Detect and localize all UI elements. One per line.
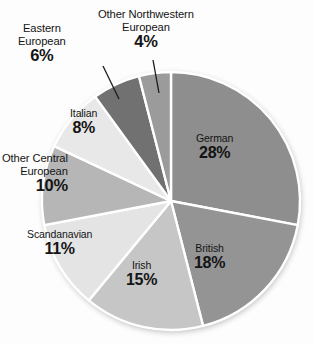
slice-label-german: German 28%	[196, 133, 233, 162]
slice-percent-italian: 8%	[70, 119, 97, 137]
slice-percent-other-northwestern-european: 4%	[98, 32, 194, 50]
slice-label-irish: Irish 15%	[126, 260, 157, 289]
slice-percent-other-central-european: 10%	[2, 176, 68, 194]
slice-name-british: British	[194, 243, 225, 255]
slice-name-eastern-european-line1: Eastern	[18, 22, 66, 35]
slice-percent-german: 28%	[196, 144, 233, 162]
slice-label-italian: Italian 8%	[70, 108, 97, 137]
slice-name-german: German	[196, 133, 233, 145]
slice-percent-irish: 15%	[126, 271, 157, 289]
slice-name-scandanavian: Scandanavian	[27, 229, 92, 241]
slice-percent-eastern-european: 6%	[18, 46, 66, 64]
slice-label-other-central-european: Other Central European 10%	[2, 152, 68, 195]
slice-percent-british: 18%	[194, 254, 225, 272]
slice-name-other-central-european-line1: Other Central	[2, 152, 68, 165]
slice-label-scandanavian: Scandanavian 11%	[27, 229, 92, 258]
slice-name-italian: Italian	[70, 108, 97, 120]
slice-label-other-northwestern-european: Other Northwestern European 4%	[98, 8, 194, 51]
pie-slice-german[interactable]: German 28%	[171, 72, 300, 225]
slice-label-british: British 18%	[194, 243, 225, 272]
slice-name-other-northwestern-european-line1: Other Northwestern	[98, 8, 194, 21]
slice-label-eastern-european: Eastern European 6%	[18, 22, 66, 65]
pie-chart: German 28%British 18%Irish 15%Scandanavi…	[0, 0, 313, 344]
slice-percent-scandanavian: 11%	[27, 240, 92, 258]
